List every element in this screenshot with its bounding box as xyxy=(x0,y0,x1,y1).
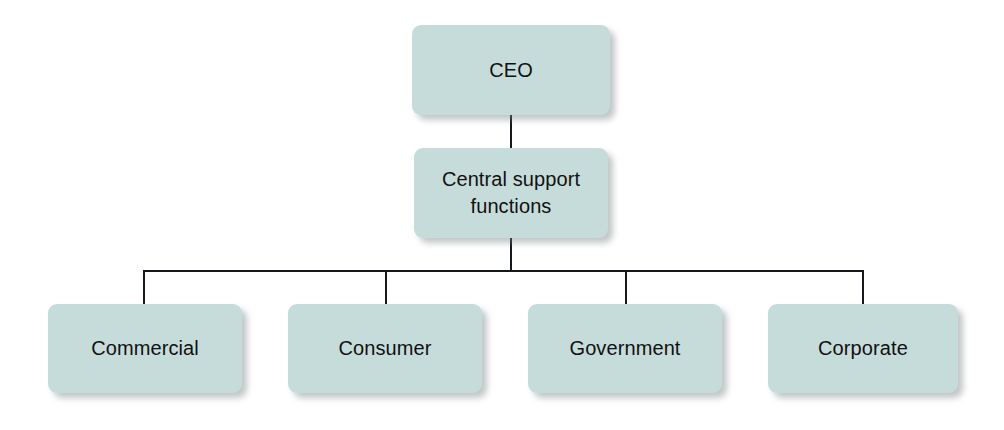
connector-central-to-bus xyxy=(510,238,512,272)
node-consumer-label: Consumer xyxy=(338,335,431,362)
node-ceo-label: CEO xyxy=(489,57,533,84)
node-ceo[interactable]: CEO xyxy=(412,25,610,115)
connector-bus-to-corporate xyxy=(862,270,864,306)
node-commercial[interactable]: Commercial xyxy=(48,304,242,393)
connector-bus-to-consumer xyxy=(385,270,387,306)
node-consumer[interactable]: Consumer xyxy=(288,304,482,393)
node-government-label: Government xyxy=(569,335,680,362)
org-chart-canvas: CEO Central support functions Commercial… xyxy=(0,0,1004,430)
node-commercial-label: Commercial xyxy=(91,335,199,362)
connector-bus-to-commercial xyxy=(143,270,145,306)
node-central-support-functions[interactable]: Central support functions xyxy=(414,148,608,238)
node-government[interactable]: Government xyxy=(528,304,722,393)
connector-bus-to-government xyxy=(625,270,627,306)
connector-horizontal-bus xyxy=(143,270,864,272)
node-corporate[interactable]: Corporate xyxy=(768,304,958,393)
node-central-support-functions-label: Central support functions xyxy=(442,166,580,220)
node-corporate-label: Corporate xyxy=(818,335,908,362)
connector-ceo-to-central xyxy=(510,115,512,148)
